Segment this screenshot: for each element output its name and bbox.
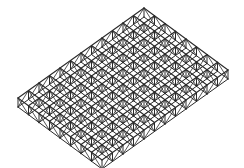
isometric-grid-drawing [0,0,244,168]
space-frame-diagram [0,0,244,168]
upper-chord-line [102,70,228,160]
upper-chord-line [92,62,218,152]
